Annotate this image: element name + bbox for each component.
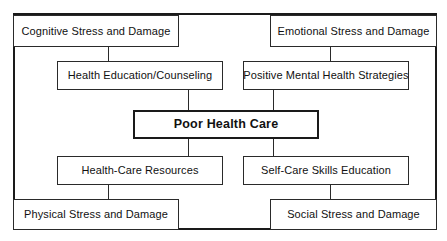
connector-health-education-to-poor-health-care [188,90,189,111]
connector-poor-health-care-to-health-care-resources [188,139,189,156]
connector-self-care-skills-to-social-stress [330,184,331,200]
node-social-stress-and-damage[interactable]: Social Stress and Damage [270,199,437,230]
node-label: Poor Health Care [174,118,279,132]
connector-emotional-to-positive-mental-health [330,47,331,62]
node-label: Physical Stress and Damage [24,208,168,220]
diagram-canvas: Cognitive Stress and Damage Emotional St… [0,0,447,241]
node-label: Health Education/Counseling [68,69,213,81]
node-label: Positive Mental Health Strategies [243,69,408,81]
node-poor-health-care[interactable]: Poor Health Care [133,110,319,139]
node-physical-stress-and-damage[interactable]: Physical Stress and Damage [13,199,179,230]
node-label: Emotional Stress and Damage [278,25,430,37]
node-cognitive-stress-and-damage[interactable]: Cognitive Stress and Damage [13,15,179,47]
node-label: Cognitive Stress and Damage [22,25,171,37]
node-label: Health-Care Resources [81,164,198,176]
node-label: Self-Care Skills Education [261,164,391,176]
node-health-education-counseling[interactable]: Health Education/Counseling [57,61,223,90]
node-positive-mental-health-strategies[interactable]: Positive Mental Health Strategies [243,61,409,90]
connector-positive-mental-health-to-poor-health-care [273,90,274,111]
node-self-care-skills-education[interactable]: Self-Care Skills Education [243,156,409,185]
node-emotional-stress-and-damage[interactable]: Emotional Stress and Damage [270,15,437,47]
node-label: Social Stress and Damage [287,208,420,220]
node-health-care-resources[interactable]: Health-Care Resources [57,156,223,185]
connector-cognitive-to-health-education [108,47,109,62]
connector-poor-health-care-to-self-care-skills [273,139,274,156]
connector-health-care-resources-to-physical-stress [108,184,109,200]
